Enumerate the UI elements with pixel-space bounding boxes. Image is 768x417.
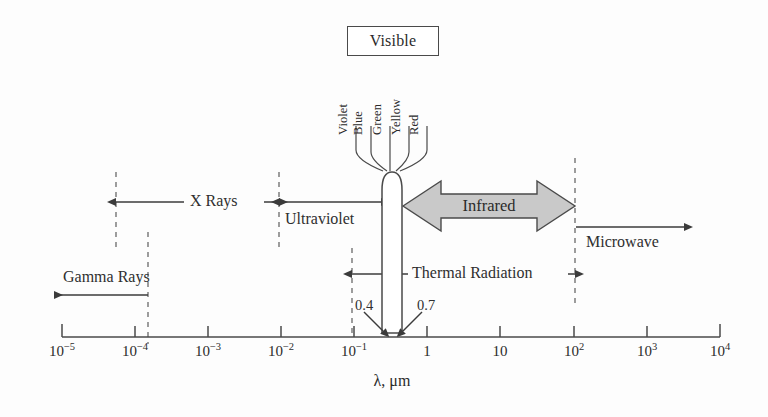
visible-box-label: Visible [370,32,417,50]
color-label-red: Red [407,115,422,135]
visible-spectrum-tube [382,172,402,333]
axis-tick-label: 10−1 [341,343,367,360]
axis-tick-label: 10 [493,343,508,360]
band-label-microwave: Microwave [586,233,659,251]
color-label-yellow: Yellow [389,99,404,135]
band-label-x-rays: X Rays [190,192,238,210]
axis-tick-label: 104 [710,343,730,360]
electromagnetic-spectrum-figure: Visible Violet Blue Green Yellow Red X R… [0,0,768,417]
lower-bound-pointer [364,312,383,331]
color-label-green: Green [370,104,385,135]
axis-tick-label: 10−3 [195,343,221,360]
color-label-blue: Blue [351,111,366,135]
visible-upper-bound-label: 0.7 [417,297,435,314]
axis-tick-label: 10−5 [49,343,75,360]
axis-title: λ, μm [374,372,411,390]
visible-lower-bound-label: 0.4 [355,297,373,314]
color-label-violet: Violet [336,104,351,135]
band-label-gamma-rays: Gamma Rays [63,268,150,286]
band-label-ultraviolet: Ultraviolet [285,210,354,228]
axis-tick-label: 10−4 [122,343,148,360]
band-label-thermal-radiation: Thermal Radiation [412,264,532,282]
band-boundary-lines [116,158,575,344]
axis-tick-label: 103 [637,343,657,360]
axis-tick-label: 10−2 [268,343,294,360]
visible-box: Visible [347,26,439,56]
band-label-infrared: Infrared [462,196,515,216]
upper-bound-pointer [403,312,422,331]
axis-tick-label: 1 [423,343,431,360]
axis-tick-label: 102 [564,343,584,360]
